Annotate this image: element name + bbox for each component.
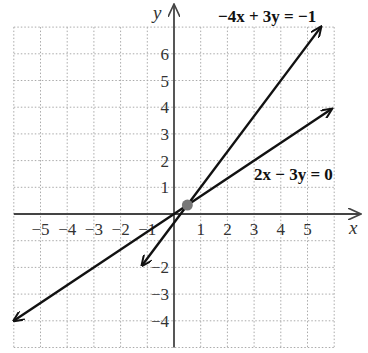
y-tick-label: 1 xyxy=(161,178,170,197)
x-tick-label: 4 xyxy=(277,220,286,239)
x-tick-label: −4 xyxy=(58,220,77,239)
equation-label-1: −4x + 3y = −1 xyxy=(218,7,316,26)
y-axis-label: y xyxy=(151,2,162,23)
x-tick-label: 5 xyxy=(303,220,312,239)
equation-label-2: 2x − 3y = 0 xyxy=(254,165,333,184)
x-tick-label: −3 xyxy=(85,220,103,239)
x-tick-label: −5 xyxy=(31,220,49,239)
y-tick-label: −4 xyxy=(151,312,170,331)
x-tick-label: 1 xyxy=(196,220,205,239)
x-tick-label: 3 xyxy=(250,220,259,239)
coordinate-plane: −5−4−3−2−112345654321−2−3−4 y x −4x + 3y… xyxy=(0,0,368,353)
line-2 xyxy=(14,109,332,321)
y-tick-label: −3 xyxy=(151,285,169,304)
y-tick-label: 6 xyxy=(161,45,170,64)
intersection-point xyxy=(182,200,193,211)
y-tick-label: 4 xyxy=(161,98,170,117)
y-tick-label: −2 xyxy=(151,258,169,277)
x-tick-label: 2 xyxy=(223,220,232,239)
x-axis-label: x xyxy=(348,217,358,238)
x-tick-label: −2 xyxy=(112,220,130,239)
y-tick-label: 2 xyxy=(161,152,170,171)
y-tick-label: 5 xyxy=(161,72,170,91)
y-tick-label: 3 xyxy=(161,125,170,144)
